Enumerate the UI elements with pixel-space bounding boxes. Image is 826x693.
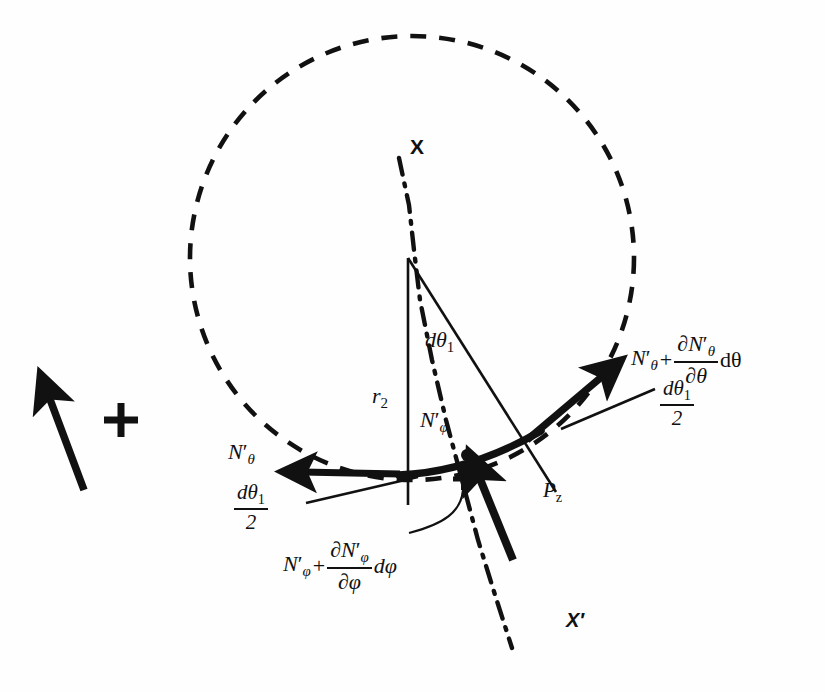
- meridional-incremented-operator: +: [313, 554, 325, 577]
- meridional-incremented-fraction: ∂N′φ ∂φ: [327, 539, 372, 593]
- meridional-incremented-numerator-sub: φ: [361, 549, 369, 565]
- meridional-incremented-sub: φ: [303, 563, 311, 579]
- half-angle-numerator: dθ1: [660, 378, 694, 403]
- legend-arrow: [48, 394, 84, 490]
- meridional-incremented-differential: dφ: [374, 554, 397, 577]
- half-angle-numerator: dθ1: [234, 482, 268, 507]
- hoop-incremented-base: N: [631, 345, 646, 370]
- radius-label: r2: [372, 384, 388, 411]
- axis-line-x-xprime: [399, 158, 512, 648]
- meridional-force-label: N′φ: [420, 408, 448, 435]
- hoop-incremented-operator: +: [660, 348, 672, 371]
- radius-sub: 2: [381, 395, 388, 411]
- hoop-incremented-differential: dθ: [720, 348, 742, 371]
- half-angle-numerator-sub: 1: [258, 491, 265, 507]
- meridional-force-incremented-label: N′φ + ∂N′φ ∂φ dφ: [283, 539, 397, 593]
- leader-meridional-curve: [409, 490, 463, 533]
- hoop-incremented-fraction-numerator: ∂N′θ: [674, 333, 718, 360]
- half-angle-label-right: dθ1 2: [660, 378, 694, 429]
- radius-base: r: [372, 383, 381, 408]
- meridional-force-incremented-row: N′φ + ∂N′φ ∂φ dφ: [283, 539, 397, 593]
- pressure-sub: z: [556, 489, 562, 505]
- half-angle-fraction: dθ1 2: [660, 378, 694, 429]
- angle-increment-label: dθ1: [425, 328, 454, 355]
- half-angle-label-left: dθ1 2: [234, 482, 268, 533]
- half-angle-numerator-sub: 1: [684, 387, 691, 403]
- figure-canvas: X X′ dθ1 r2 N′φ N′θ dθ1 2 N′θ + ∂N′θ ∂θ …: [0, 0, 826, 693]
- meridian-circle: [190, 36, 634, 480]
- meridional-incremented-numerator-partial: ∂N: [330, 537, 356, 562]
- axis-label-x-prime: X′: [566, 610, 584, 631]
- angle-increment-base: dθ: [425, 327, 447, 352]
- meridional-incremented-fraction-denominator: ∂φ: [327, 570, 372, 593]
- half-angle-numerator-base: dθ: [237, 480, 258, 504]
- half-angle-numerator-base: dθ: [663, 376, 684, 400]
- pressure-arrow: [478, 474, 513, 560]
- dot-marker: [461, 449, 473, 461]
- half-angle-denominator: 2: [660, 407, 694, 429]
- axis-label-x: X: [410, 136, 424, 158]
- angle-increment-sub: 1: [447, 339, 454, 355]
- hoop-force-base: N: [228, 439, 243, 464]
- pressure-label: Pz: [543, 479, 562, 505]
- meridional-incremented-fraction-numerator: ∂N′φ: [327, 539, 372, 566]
- plus-marker: [453, 468, 474, 490]
- half-angle-fraction: dθ1 2: [234, 482, 268, 533]
- hoop-incremented-numerator-partial: ∂N: [677, 331, 703, 356]
- meridional-force-sub: φ: [440, 419, 448, 435]
- meridional-incremented-first-term: N′φ: [283, 552, 311, 579]
- hoop-incremented-first-term: N′θ: [631, 346, 658, 373]
- legend-plus: [104, 403, 138, 437]
- hoop-force-sub: θ: [248, 451, 255, 467]
- meridional-incremented-base: N: [283, 551, 298, 576]
- leader-left-half-angle: [306, 477, 418, 503]
- hoop-force-label-left: N′θ: [228, 440, 255, 467]
- pressure-base: P: [543, 478, 556, 502]
- hoop-force-right-arrow: [527, 374, 605, 440]
- meridional-force-base: N: [420, 407, 435, 432]
- hoop-incremented-sub: θ: [651, 357, 658, 373]
- hoop-incremented-numerator-sub: θ: [708, 343, 715, 359]
- hoop-force-left-arrow: [302, 472, 400, 474]
- half-angle-denominator: 2: [234, 511, 268, 533]
